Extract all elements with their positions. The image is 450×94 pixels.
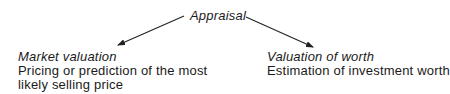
branch-title-valuation-of-worth: Valuation of worth <box>267 50 374 64</box>
arrow-to-valuation-of-worth <box>246 17 313 47</box>
root-node-appraisal: Appraisal <box>190 9 246 23</box>
branch-desc-line: likely selling price <box>18 78 123 92</box>
branch-desc-line: Pricing or prediction of the most <box>18 64 207 78</box>
branch-title-market-valuation: Market valuation <box>18 50 117 64</box>
branch-desc-line: Estimation of investment worth <box>267 64 450 78</box>
arrow-to-market-valuation <box>118 16 184 45</box>
